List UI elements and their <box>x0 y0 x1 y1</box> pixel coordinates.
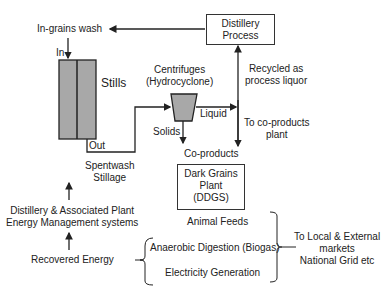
animal-feeds-label: Animal Feeds <box>187 216 248 228</box>
distillery-process-box: Distillery Process <box>206 14 275 45</box>
process-diagram: Distillery Process In-grains wash In Sti… <box>0 0 385 293</box>
coproducts-label: Co-products <box>184 148 238 160</box>
dark-grains-label: Dark Grains Plant (DDGS) <box>184 168 237 203</box>
liquid-label: Liquid <box>200 108 227 120</box>
recovered-energy-label: Recovered Energy <box>31 254 114 266</box>
in-label: In <box>56 47 64 59</box>
spentwash-label: Spentwash Stillage <box>85 160 134 184</box>
electricity-generation-label: Electricity Generation <box>165 267 260 279</box>
markets-label: To Local & External markets National Gri… <box>294 231 380 267</box>
distillery-process-label: Distillery Process <box>222 18 260 41</box>
solids-label: Solids <box>153 126 180 138</box>
to-coproducts-label: To co-products plant <box>244 117 310 141</box>
energy-management-label: Distillery & Associated Plant Energy Man… <box>6 205 138 229</box>
anaerobic-digestion-label: Anaerobic Digestion (Biogas) <box>150 242 280 254</box>
centrifuges-label: Centrifuges (Hydrocyclone) <box>146 64 213 88</box>
in-grains-wash-label: In-grains wash <box>37 23 102 35</box>
stills-label: Stills <box>101 77 126 89</box>
dark-grains-box: Dark Grains Plant (DDGS) <box>177 164 245 210</box>
recycled-label: Recycled as process liquor <box>245 63 307 87</box>
out-label: Out <box>89 140 105 152</box>
